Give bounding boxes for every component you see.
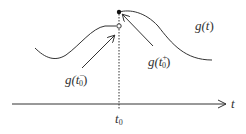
curve-left-branch [35, 26, 116, 59]
label-paren: ) [166, 54, 170, 69]
label-sub: 0 [119, 118, 123, 127]
filled-dot-right-limit [117, 10, 121, 14]
label-right-limit: g(t+0) [148, 53, 170, 70]
label-paren: ) [209, 18, 213, 33]
arrow-to-left-limit [82, 36, 114, 68]
discontinuity-diagram: g(t) g(t+0) g(t−0) t t0 [0, 0, 246, 134]
label-left-limit: g(t−0) [65, 71, 87, 88]
label-g: g( [148, 54, 160, 69]
label-paren: ) [83, 72, 87, 87]
label-g-of-t: g(t) [195, 18, 214, 33]
label-g: g( [65, 72, 77, 87]
open-dot-left-limit [117, 24, 121, 28]
arrow-to-right-limit [123, 15, 153, 46]
label-g: g( [195, 18, 207, 33]
axis-label-t: t [231, 96, 235, 111]
tick-label-t0: t0 [115, 111, 123, 127]
